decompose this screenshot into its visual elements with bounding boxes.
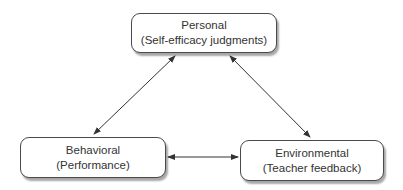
arrow-personal-behavioral bbox=[94, 56, 175, 134]
node-personal-title: Personal bbox=[181, 18, 226, 33]
node-environmental-title: Environmental bbox=[275, 146, 349, 161]
node-behavioral: Behavioral (Performance) bbox=[20, 137, 166, 178]
node-environmental: Environmental (Teacher feedback) bbox=[240, 140, 384, 181]
node-environmental-subtitle: (Teacher feedback) bbox=[263, 161, 361, 176]
node-personal-subtitle: (Self-efficacy judgments) bbox=[141, 33, 267, 48]
arrow-personal-environmental bbox=[230, 56, 310, 137]
node-personal: Personal (Self-efficacy judgments) bbox=[131, 13, 277, 53]
node-behavioral-subtitle: (Performance) bbox=[56, 158, 130, 173]
node-behavioral-title: Behavioral bbox=[66, 143, 120, 158]
